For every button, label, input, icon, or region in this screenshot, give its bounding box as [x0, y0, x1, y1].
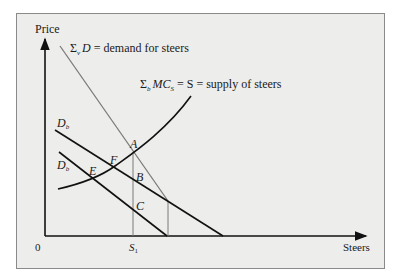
point-f-label: F — [109, 153, 118, 167]
origin-label: 0 — [35, 241, 41, 253]
s1-tick-label: S1 — [129, 241, 139, 255]
aggregate-demand-label: ΣvD = demand for steers — [70, 41, 189, 57]
x-axis-label: Steers — [343, 241, 370, 253]
aggregate-demand-curve — [60, 46, 168, 201]
diagram-canvas: Price Steers 0 S1 ΣvD = demand for steer… — [0, 0, 395, 280]
point-b-label: B — [136, 170, 144, 184]
supply-label: ΣbMCS = S = supply of steers — [140, 77, 282, 93]
y-axis-label: Price — [35, 22, 60, 36]
individual-demand-upper-label: Db — [56, 116, 70, 131]
individual-demand-lower-label: Db — [56, 158, 70, 173]
supply-curve — [58, 96, 191, 189]
point-a-label: A — [129, 137, 138, 151]
point-c-label: C — [136, 199, 145, 213]
point-e-label: E — [88, 164, 97, 178]
